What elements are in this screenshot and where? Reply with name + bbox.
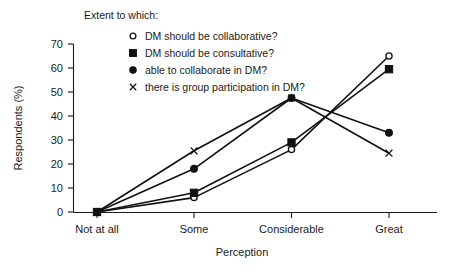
legend-heading: Extent to which:	[84, 9, 158, 21]
y-tick-label-50: 50	[51, 86, 63, 98]
data-point-collaborative-great	[386, 53, 392, 59]
y-tick-labels: 70 60 50 40 30 20 10 0	[51, 38, 63, 218]
legend-marker-filled-square-icon	[130, 50, 137, 57]
chart-figure: 70 60 50 40 30 20 10 0 Not at all Some C…	[0, 0, 455, 280]
y-tick-label-0: 0	[57, 206, 63, 218]
legend: Extent to which: DM should be collaborat…	[84, 9, 305, 93]
x-axis-title: Perception	[216, 246, 269, 258]
legend-marker-open-circle-icon	[130, 33, 136, 39]
x-tick-label-great: Great	[375, 223, 403, 235]
legend-marker-cross-icon	[130, 84, 136, 90]
legend-label-collaborative: DM should be collaborative?	[145, 30, 278, 42]
data-point-able-to-collaborate-great	[386, 129, 393, 136]
series-lines	[97, 56, 389, 212]
data-point-collaborative-considerable	[288, 147, 294, 153]
x-tick-label-some: Some	[180, 223, 209, 235]
series-line-able-to-collaborate	[97, 98, 389, 212]
x-tick-labels: Not at all Some Considerable Great	[75, 223, 402, 235]
x-tick-label-considerable: Considerable	[259, 223, 324, 235]
legend-label-consultative: DM should be consultative?	[145, 47, 274, 59]
y-tick-label-40: 40	[51, 110, 63, 122]
legend-marker-filled-circle-icon	[130, 67, 136, 73]
y-tick-label-70: 70	[51, 38, 63, 50]
markers-group-participation	[94, 95, 393, 216]
data-point-consultative-considerable	[288, 139, 295, 146]
y-tick-label-10: 10	[51, 182, 63, 194]
x-tick-label-not-at-all: Not at all	[75, 223, 118, 235]
y-tick-marks	[68, 44, 74, 212]
series-line-group-participation	[97, 98, 389, 212]
y-axis-title: Respondents (%)	[12, 86, 24, 171]
data-point-consultative-some	[190, 189, 197, 196]
markers-able-to-collaborate	[94, 95, 393, 216]
x-tick-marks	[97, 213, 389, 219]
legend-label-group-participation: there is group participation in DM?	[145, 81, 305, 93]
data-point-group-participation-some	[191, 147, 198, 154]
legend-label-able-to-collaborate: able to collaborate in DM?	[145, 64, 267, 76]
data-point-group-participation-great	[386, 150, 393, 157]
y-tick-label-30: 30	[51, 134, 63, 146]
y-tick-label-20: 20	[51, 158, 63, 170]
line-chart: 70 60 50 40 30 20 10 0 Not at all Some C…	[0, 0, 455, 280]
data-point-able-to-collaborate-some	[191, 165, 198, 172]
y-tick-label-60: 60	[51, 62, 63, 74]
data-point-consultative-great	[385, 66, 392, 73]
